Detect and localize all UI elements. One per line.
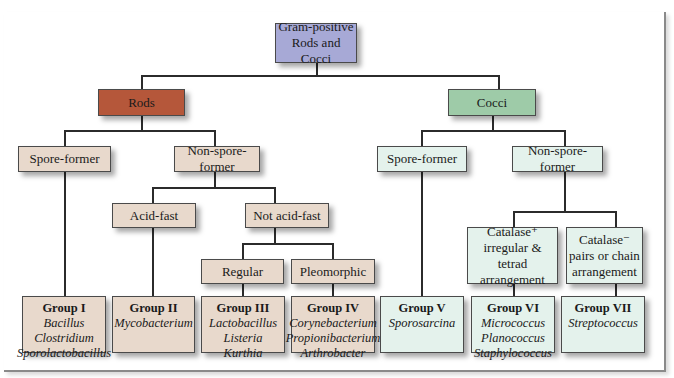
genus-label: Clostridium <box>34 331 94 346</box>
connector <box>615 211 617 227</box>
node-label: Non-spore-former <box>513 143 602 175</box>
connector <box>152 187 276 189</box>
genus-label: Lactobacillus <box>209 316 277 331</box>
pleomorphic-node: Pleomorphic <box>291 259 375 284</box>
cocci-non-spore-former-node: Non-spore-former <box>512 146 603 172</box>
connector <box>64 130 66 146</box>
group-title: Group I <box>42 301 85 316</box>
genus-label: Propionibacterium <box>286 331 381 346</box>
node-label: arrangement <box>572 264 637 280</box>
group-iii-node: Group III Lactobacillus Listeria Kurthia <box>201 296 285 353</box>
connector <box>64 172 66 296</box>
genus-label: Sporosarcina <box>389 316 455 331</box>
node-label: Pleomorphic <box>300 264 366 280</box>
node-label: irregular & tetrad <box>468 240 557 272</box>
genus-label: Mycobacterium <box>114 316 192 331</box>
group-title: Group II <box>129 301 177 316</box>
connector <box>513 211 617 213</box>
group-vii-node: Group VII Streptococcus <box>561 296 645 353</box>
connector <box>152 187 154 203</box>
group-title: Group VII <box>575 301 632 316</box>
rods-spore-former-node: Spore-former <box>18 146 111 172</box>
genus-label: Arthrobacter <box>301 346 366 361</box>
connector <box>421 130 423 146</box>
not-acid-fast-node: Not acid-fast <box>245 203 329 228</box>
acid-fast-node: Acid-fast <box>112 203 196 228</box>
connector <box>421 130 566 132</box>
connector <box>141 75 500 77</box>
group-iv-node: Group IV Corynebacterium Propionibacteri… <box>291 296 375 353</box>
connector <box>332 243 334 259</box>
rods-non-spore-former-node: Non-spore-former <box>174 146 260 172</box>
node-label: Spore-former <box>29 151 99 167</box>
node-label: arrangement <box>480 272 545 288</box>
node-label: Catalase⁺ <box>487 224 538 240</box>
node-label: Regular <box>222 264 263 280</box>
connector <box>492 115 494 131</box>
connector <box>274 228 276 244</box>
connector <box>564 172 566 212</box>
node-label: Non-spore-former <box>175 143 259 175</box>
group-vi-node: Group VI Micrococcus Planococcus Staphyl… <box>471 296 555 353</box>
connector <box>242 243 244 259</box>
root-node: Gram-positive Rods and Cocci <box>275 23 357 63</box>
regular-node: Regular <box>201 259 284 284</box>
catalase-positive-node: Catalase⁺ irregular & tetrad arrangement <box>467 227 558 284</box>
group-title: Group III <box>217 301 270 316</box>
genus-label: Streptococcus <box>568 316 638 331</box>
genus-label: Kurthia <box>224 346 263 361</box>
connector <box>64 130 216 132</box>
cocci-label: Cocci <box>477 95 507 111</box>
group-title: Group V <box>398 301 445 316</box>
connector <box>274 187 276 203</box>
connector <box>242 284 244 296</box>
genus-label: Staphylococcus <box>474 346 552 361</box>
connector <box>498 75 500 89</box>
root-line2: Rods and Cocci <box>276 35 356 67</box>
genus-label: Sporolactobacillus <box>17 346 111 361</box>
group-i-node: Group I Bacillus Clostridium Sporolactob… <box>22 296 106 353</box>
connector <box>242 243 334 245</box>
genus-label: Corynebacterium <box>289 316 376 331</box>
connector <box>141 75 143 89</box>
group-v-node: Group V Sporosarcina <box>380 296 464 353</box>
node-label: Not acid-fast <box>253 208 321 224</box>
group-title: Group IV <box>307 301 359 316</box>
rods-label: Rods <box>128 95 155 111</box>
genus-label: Planococcus <box>481 331 545 346</box>
connector <box>332 284 334 296</box>
cocci-spore-former-node: Spore-former <box>377 146 467 172</box>
genus-label: Listeria <box>224 331 263 346</box>
connector <box>152 228 154 296</box>
rods-node: Rods <box>98 89 185 116</box>
group-title: Group VI <box>487 301 539 316</box>
connector <box>421 172 423 296</box>
root-line1: Gram-positive <box>278 19 353 35</box>
node-label: Spore-former <box>387 151 457 167</box>
cocci-node: Cocci <box>448 89 536 116</box>
connector <box>141 115 143 131</box>
node-label: pairs or chain <box>569 248 640 264</box>
group-ii-node: Group II Mycobacterium <box>112 296 195 353</box>
connector <box>615 284 617 296</box>
node-label: Acid-fast <box>130 208 178 224</box>
genus-label: Bacillus <box>44 316 85 331</box>
genus-label: Micrococcus <box>481 316 545 331</box>
node-label: Catalase⁻ <box>579 232 630 248</box>
catalase-negative-node: Catalase⁻ pairs or chain arrangement <box>566 227 643 284</box>
